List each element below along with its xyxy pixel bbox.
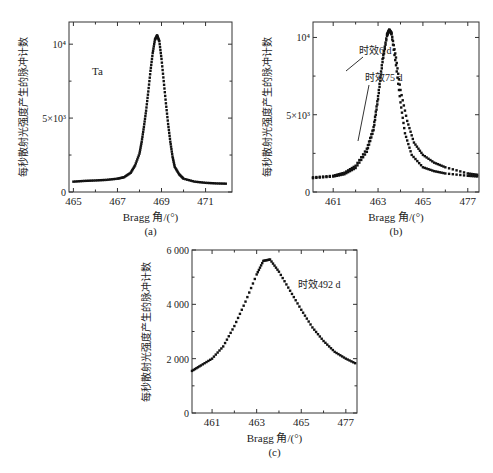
plot-frame (313, 22, 479, 192)
plot-frame (69, 22, 232, 192)
x-tick-label: 467 (109, 195, 126, 207)
data-series (312, 29, 479, 180)
y-tick-label: 5×10³ (286, 110, 310, 121)
chart-panel-c: 46146346547702 0004 0006 000Bragg 角/(°)(… (140, 245, 357, 459)
x-tick-label: 461 (325, 195, 342, 207)
x-tick-label: 465 (293, 416, 310, 428)
y-tick-label: 0 (184, 408, 189, 419)
y-axis-label: 每秒散射光强度产生的脉冲计数 (261, 37, 273, 177)
x-tick-label: 465 (65, 195, 82, 207)
annotation-label: Ta (92, 65, 103, 77)
plot-frame (192, 250, 357, 413)
y-tick-label: 10⁴ (297, 32, 311, 43)
data-series (191, 258, 357, 372)
y-tick-label: 2 000 (167, 354, 190, 365)
chart-panel-a: 46546746947105×10³10⁴Bragg 角/(°)(a)每秒散射光… (17, 22, 232, 238)
annotation-label: 时效75 d (365, 71, 403, 83)
x-tick-label: 465 (415, 195, 432, 207)
panel-caption: (a) (144, 225, 157, 238)
x-tick-label: 477 (338, 416, 355, 428)
x-tick-label: 461 (204, 416, 221, 428)
chart-panel-b: 46146346547705×10³10⁴Bragg 角/(°)(b)每秒散射光… (261, 22, 479, 238)
panel-caption: (b) (390, 225, 403, 238)
y-axis-label: 每秒散射光强度产生的脉冲计数 (17, 37, 29, 177)
y-tick-label: 5×10³ (42, 113, 66, 124)
x-tick-label: 469 (153, 195, 170, 207)
x-tick-label: 463 (370, 195, 387, 207)
y-axis-label: 每秒散射光强度产生的脉冲计数 (140, 262, 152, 402)
panel-caption: (c) (268, 446, 281, 459)
data-series (72, 34, 227, 185)
x-tick-label: 477 (460, 195, 477, 207)
annotation-label: 时效6 d (359, 44, 392, 56)
x-tick-label: 463 (248, 416, 265, 428)
data-series (312, 29, 479, 179)
annotation-label: 时效492 d (298, 278, 341, 290)
x-axis-label: Bragg 角/(°) (123, 211, 179, 224)
x-axis-label: Bragg 角/(°) (247, 432, 303, 445)
y-tick-label: 0 (305, 187, 310, 198)
y-tick-label: 0 (61, 187, 66, 198)
x-axis-label: Bragg 角/(°) (368, 211, 424, 224)
y-tick-label: 10⁴ (53, 39, 67, 50)
y-tick-label: 6 000 (167, 245, 190, 256)
x-tick-label: 471 (197, 195, 214, 207)
figure: 46546746947105×10³10⁴Bragg 角/(°)(a)每秒散射光… (0, 0, 493, 473)
y-tick-label: 4 000 (167, 299, 190, 310)
